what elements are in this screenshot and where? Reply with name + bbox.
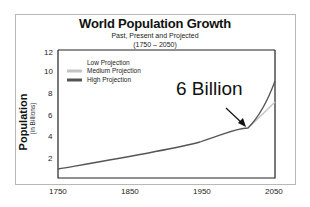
legend-medium: Medium Projection <box>87 67 141 74</box>
legend-high: High Projection <box>87 76 131 83</box>
legend-low: Low Projection <box>87 59 130 66</box>
plot-area <box>0 0 310 207</box>
arrow-head <box>238 118 246 127</box>
annotation-6-billion: 6 Billion <box>176 78 243 100</box>
